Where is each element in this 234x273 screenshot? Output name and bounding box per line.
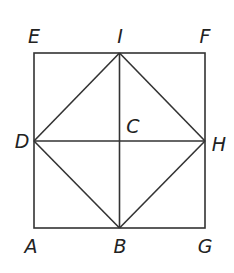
label-D: D — [15, 130, 30, 152]
segment-DI — [34, 53, 120, 141]
label-H: H — [212, 133, 226, 155]
geometry-diagram: E I F D C H A B G — [0, 0, 234, 273]
diagram-svg: E I F D C H A B G — [0, 0, 234, 273]
label-G: G — [198, 235, 213, 257]
segment-BD — [34, 141, 120, 228]
label-B: B — [113, 235, 126, 257]
segment-HB — [120, 141, 206, 228]
label-A: A — [23, 235, 38, 257]
label-E: E — [28, 25, 40, 47]
label-C: C — [126, 115, 140, 137]
label-F: F — [200, 25, 212, 47]
label-I: I — [117, 25, 123, 47]
